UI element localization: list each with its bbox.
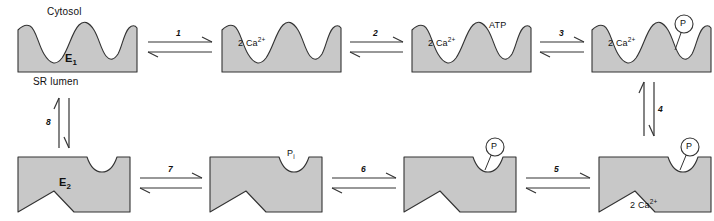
- step-number-6: 6: [361, 164, 366, 174]
- enzyme-label-e2: E2: [59, 176, 71, 191]
- serca-cycle-diagram: Cytosol SR lumen E1 E2 2 Ca2+ 2 Ca2+ 2 C…: [0, 0, 714, 221]
- protein-shape-e2: [18, 157, 130, 212]
- reaction-arrow-6: [332, 173, 396, 193]
- compartment-label-sr-lumen: SR lumen: [33, 76, 79, 87]
- enzyme-label-e1: E1: [65, 52, 77, 67]
- step-number-3: 3: [559, 28, 564, 38]
- phosphate-label-e2p-release: P: [686, 141, 692, 151]
- reaction-arrow-5: [526, 173, 590, 193]
- reaction-arrow-8: [54, 98, 69, 148]
- ligand-label-calcium-state-4: 2 Ca2+: [608, 36, 636, 48]
- reaction-arrow-1: [148, 37, 212, 57]
- step-number-1: 1: [176, 28, 181, 38]
- protein-shape-e1: [18, 22, 137, 72]
- step-number-8: 8: [46, 117, 51, 127]
- protein-shape-e2p: [404, 157, 516, 212]
- reaction-arrow-7: [140, 173, 202, 193]
- step-number-2: 2: [373, 28, 378, 38]
- phosphate-label-e2p: P: [491, 141, 497, 151]
- ligand-label-calcium-released: 2 Ca2+: [630, 198, 658, 210]
- step-number-7: 7: [168, 164, 173, 174]
- step-number-5: 5: [554, 164, 559, 174]
- step-number-4: 4: [658, 104, 663, 114]
- reaction-arrow-2: [350, 37, 403, 57]
- ligand-label-atp: ATP: [489, 20, 506, 30]
- ligand-label-phosphate-inorganic: Pi: [287, 148, 295, 160]
- reaction-arrow-3: [540, 37, 584, 57]
- reaction-arrow-4: [639, 82, 654, 136]
- protein-shape-e2-pi: [210, 157, 322, 212]
- phosphate-label-top: P: [680, 18, 686, 28]
- diagram-graphics: [0, 0, 714, 221]
- ligand-label-calcium-state-2: 2 Ca2+: [238, 36, 266, 48]
- compartment-label-cytosol: Cytosol: [47, 6, 82, 17]
- ligand-label-calcium-state-3: 2 Ca2+: [428, 36, 456, 48]
